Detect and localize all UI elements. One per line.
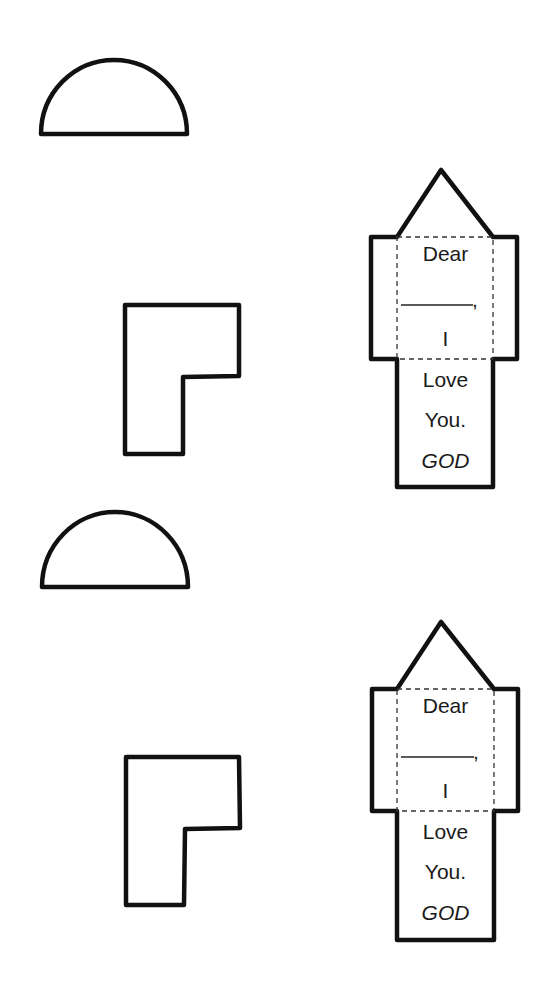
house-1-i: I xyxy=(397,328,494,349)
house-2-love: Love xyxy=(397,821,494,842)
house-1-signature: GOD xyxy=(397,450,494,471)
house-1-you: You. xyxy=(397,409,494,430)
l-shape-2 xyxy=(126,757,240,905)
semicircle-shape-2 xyxy=(42,512,188,587)
house-1-love: Love xyxy=(397,369,494,390)
semicircle-shape-1 xyxy=(41,60,187,134)
house-2-i: I xyxy=(397,780,494,801)
house-2-you: You. xyxy=(397,861,494,882)
house-1-dear: Dear xyxy=(397,243,494,264)
house-2-comma: , xyxy=(471,741,481,762)
house-1-comma: , xyxy=(470,289,480,310)
house-2-dear: Dear xyxy=(397,695,494,716)
house-2-signature: GOD xyxy=(397,902,494,923)
l-shape-1 xyxy=(125,305,239,454)
